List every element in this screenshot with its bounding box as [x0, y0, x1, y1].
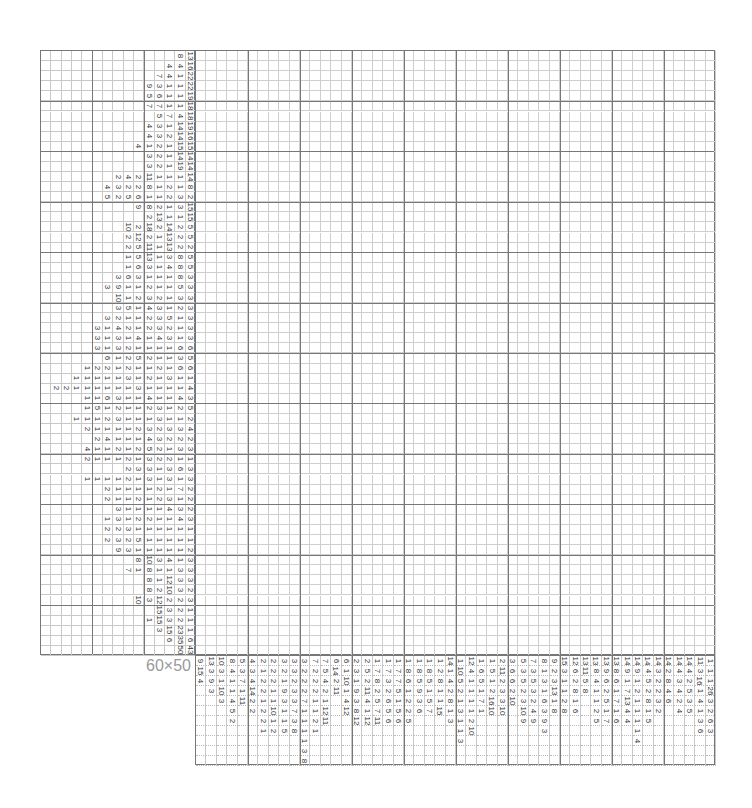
grid-cell[interactable] — [633, 505, 643, 515]
grid-cell[interactable] — [300, 323, 310, 333]
grid-cell[interactable] — [248, 404, 258, 414]
grid-cell[interactable] — [508, 585, 518, 595]
row-clue-cell[interactable] — [82, 333, 92, 343]
row-clue-cell[interactable] — [51, 293, 61, 303]
row-clue-cell[interactable] — [62, 545, 72, 555]
grid-cell[interactable] — [664, 112, 674, 122]
grid-cell[interactable] — [258, 101, 268, 111]
column-clue-cell[interactable]: 2 — [373, 686, 383, 696]
column-clue-cell[interactable] — [695, 756, 705, 766]
grid-cell[interactable] — [456, 404, 466, 414]
row-clue-cell[interactable]: 2 — [144, 374, 154, 384]
grid-cell[interactable] — [550, 343, 560, 353]
grid-cell[interactable] — [664, 142, 674, 152]
grid-cell[interactable] — [331, 142, 341, 152]
row-clue-cell[interactable] — [82, 273, 92, 283]
column-clue-cell[interactable] — [425, 746, 435, 756]
column-clue-cell[interactable]: 8 — [425, 666, 435, 676]
grid-cell[interactable] — [290, 374, 300, 384]
grid-cell[interactable] — [456, 464, 466, 474]
grid-cell[interactable] — [550, 61, 560, 71]
grid-cell[interactable] — [217, 313, 227, 323]
grid-cell[interactable] — [477, 212, 487, 222]
grid-cell[interactable] — [300, 202, 310, 212]
grid-cell[interactable] — [373, 233, 383, 243]
column-clue-cell[interactable]: 1 — [622, 676, 632, 686]
grid-cell[interactable] — [654, 333, 664, 343]
grid-cell[interactable] — [383, 545, 393, 555]
row-clue-cell[interactable] — [93, 464, 103, 474]
column-clue-cell[interactable] — [602, 736, 612, 746]
row-clue-cell[interactable]: 1 — [113, 424, 123, 434]
row-clue-cell[interactable] — [82, 616, 92, 626]
grid-cell[interactable] — [373, 263, 383, 273]
grid-cell[interactable] — [539, 273, 549, 283]
grid-cell[interactable] — [654, 283, 664, 293]
grid-cell[interactable] — [664, 293, 674, 303]
grid-cell[interactable] — [300, 263, 310, 273]
column-clue-cell[interactable] — [331, 756, 341, 766]
row-clue-cell[interactable] — [103, 616, 113, 626]
grid-cell[interactable] — [498, 182, 508, 192]
grid-cell[interactable] — [321, 253, 331, 263]
column-clue-cell[interactable]: 4 — [591, 676, 601, 686]
row-clue-cell[interactable] — [113, 132, 123, 142]
grid-cell[interactable] — [518, 253, 528, 263]
grid-cell[interactable] — [342, 354, 352, 364]
grid-cell[interactable] — [581, 202, 591, 212]
grid-cell[interactable] — [352, 81, 362, 91]
grid-cell[interactable] — [279, 132, 289, 142]
grid-cell[interactable] — [706, 172, 716, 182]
grid-cell[interactable] — [612, 384, 622, 394]
column-clue-cell[interactable]: 4 — [227, 666, 237, 676]
grid-cell[interactable] — [633, 575, 643, 585]
grid-cell[interactable] — [196, 434, 206, 444]
column-clue-cell[interactable]: 9 — [518, 716, 528, 726]
row-clue-cell[interactable] — [41, 243, 51, 253]
row-clue-cell[interactable]: 1 — [155, 394, 165, 404]
grid-cell[interactable] — [487, 555, 497, 565]
grid-cell[interactable] — [706, 505, 716, 515]
column-clue-cell[interactable] — [217, 746, 227, 756]
grid-cell[interactable] — [269, 202, 279, 212]
grid-cell[interactable] — [331, 71, 341, 81]
grid-cell[interactable] — [633, 192, 643, 202]
grid-cell[interactable] — [487, 91, 497, 101]
row-clue-cell[interactable] — [103, 636, 113, 646]
grid-cell[interactable] — [498, 535, 508, 545]
grid-cell[interactable] — [414, 182, 424, 192]
column-clue-cell[interactable] — [238, 726, 248, 736]
grid-cell[interactable] — [570, 142, 580, 152]
row-clue-cell[interactable] — [51, 505, 61, 515]
grid-cell[interactable] — [258, 323, 268, 333]
grid-cell[interactable] — [414, 343, 424, 353]
grid-cell[interactable] — [238, 535, 248, 545]
grid-cell[interactable] — [529, 263, 539, 273]
row-clue-cell[interactable] — [72, 464, 82, 474]
grid-cell[interactable] — [269, 132, 279, 142]
grid-cell[interactable] — [352, 384, 362, 394]
grid-cell[interactable] — [238, 212, 248, 222]
column-clue-cell[interactable]: 1 — [300, 706, 310, 716]
grid-cell[interactable] — [570, 152, 580, 162]
grid-cell[interactable] — [570, 162, 580, 172]
grid-cell[interactable] — [622, 91, 632, 101]
row-clue-cell[interactable] — [51, 202, 61, 212]
grid-cell[interactable] — [560, 495, 570, 505]
grid-cell[interactable] — [602, 182, 612, 192]
grid-cell[interactable] — [570, 485, 580, 495]
column-clue-cell[interactable] — [196, 706, 206, 716]
grid-cell[interactable] — [217, 192, 227, 202]
grid-cell[interactable] — [269, 243, 279, 253]
grid-cell[interactable] — [664, 263, 674, 273]
grid-cell[interactable] — [612, 253, 622, 263]
grid-cell[interactable] — [446, 636, 456, 646]
grid-cell[interactable] — [310, 293, 320, 303]
row-clue-cell[interactable]: 1 — [134, 485, 144, 495]
row-clue-cell[interactable] — [41, 212, 51, 222]
grid-cell[interactable] — [591, 192, 601, 202]
grid-cell[interactable] — [550, 313, 560, 323]
grid-cell[interactable] — [518, 394, 528, 404]
grid-cell[interactable] — [331, 515, 341, 525]
grid-cell[interactable] — [217, 394, 227, 404]
